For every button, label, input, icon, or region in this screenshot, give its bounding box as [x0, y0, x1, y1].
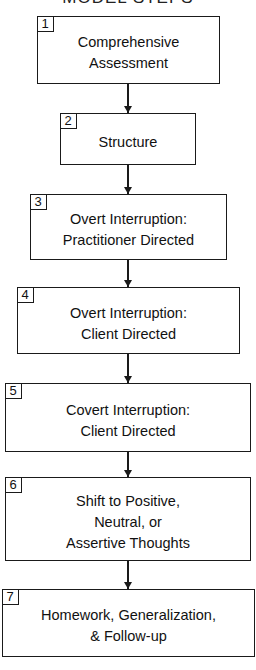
- step-5-line2: Client Directed: [66, 421, 190, 442]
- arrow-5-to-6: [127, 452, 129, 477]
- step-4-number: 4: [17, 287, 34, 303]
- arrow-4-to-5: [127, 354, 129, 383]
- arrow-1-to-2: [127, 84, 129, 113]
- step-1-line2: Assessment: [78, 53, 180, 74]
- step-4-line2: Client Directed: [70, 324, 187, 345]
- arrow-3-to-4: [127, 260, 129, 287]
- step-4-label: Overt Interruption: Client Directed: [70, 297, 187, 345]
- diagram-title-clipped: MODEL STEPS: [0, 0, 256, 8]
- step-5-number: 5: [5, 383, 22, 399]
- step-6-box: 6 Shift to Positive, Neutral, or Asserti…: [5, 477, 251, 561]
- step-3-box: 3 Overt Interruption: Practitioner Direc…: [30, 194, 227, 260]
- step-5-line1: Covert Interruption:: [66, 400, 190, 421]
- step-6-label: Shift to Positive, Neutral, or Assertive…: [66, 485, 190, 554]
- step-1-line1: Comprehensive: [78, 32, 180, 53]
- step-6-line2: Neutral, or: [66, 512, 190, 533]
- step-3-label: Overt Interruption: Practitioner Directe…: [63, 203, 194, 251]
- step-2-line1: Structure: [99, 132, 158, 153]
- step-3-line1: Overt Interruption:: [63, 209, 194, 230]
- step-1-label: Comprehensive Assessment: [78, 26, 180, 74]
- arrow-2-to-3: [127, 165, 129, 194]
- step-1-box: 1 Comprehensive Assessment: [37, 16, 220, 84]
- step-1-number: 1: [37, 16, 54, 32]
- step-7-box: 7 Homework, Generalization, & Follow-up: [2, 589, 255, 657]
- step-6-line1: Shift to Positive,: [66, 491, 190, 512]
- step-2-number: 2: [60, 113, 77, 129]
- step-7-line1: Homework, Generalization,: [41, 605, 216, 626]
- step-3-number: 3: [30, 194, 47, 210]
- step-6-line3: Assertive Thoughts: [66, 533, 190, 554]
- step-7-number: 7: [2, 589, 19, 605]
- step-2-box: 2 Structure: [60, 113, 196, 165]
- step-2-label: Structure: [99, 126, 158, 153]
- step-4-box: 4 Overt Interruption: Client Directed: [17, 287, 240, 354]
- arrow-6-to-7: [127, 561, 129, 589]
- step-6-number: 6: [5, 477, 22, 493]
- step-5-label: Covert Interruption: Client Directed: [66, 394, 190, 442]
- step-7-line2: & Follow-up: [41, 626, 216, 647]
- step-7-label: Homework, Generalization, & Follow-up: [41, 599, 216, 647]
- step-5-box: 5 Covert Interruption: Client Directed: [5, 383, 251, 452]
- step-4-line1: Overt Interruption:: [70, 303, 187, 324]
- step-3-line2: Practitioner Directed: [63, 230, 194, 251]
